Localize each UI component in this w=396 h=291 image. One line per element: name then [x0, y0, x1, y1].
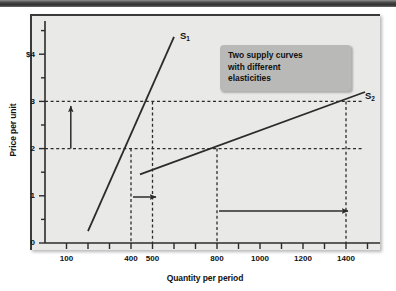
- callout-line-3: elasticities: [228, 73, 344, 85]
- economics-figure: $4 3 2 1 0 100 400 500 800 1000 1200 140…: [0, 7, 396, 291]
- callout-line-2: with different: [228, 62, 344, 74]
- x-axis-title: Quantity per period: [130, 273, 280, 283]
- s1-subscript: 1: [186, 35, 190, 42]
- supply-curve-s2: [140, 92, 365, 174]
- annotation-arrows: [71, 106, 348, 211]
- y-axis-title: Price per unit: [8, 95, 18, 165]
- x-tick-label-500: 500: [136, 254, 170, 263]
- x-tick-label-1000: 1000: [243, 254, 277, 263]
- y-tick-label-0: 0: [13, 238, 35, 247]
- x-axis-ticks: [67, 243, 368, 249]
- x-tick-label-1200: 1200: [286, 254, 320, 263]
- supply-curve-s1-label: S1: [180, 30, 190, 41]
- y-tick-label-1: 1: [13, 191, 35, 200]
- top-divider-bar: [0, 0, 396, 7]
- supply-curve-s2-label: S2: [365, 90, 375, 101]
- x-tick-label-800: 800: [200, 254, 234, 263]
- x-tick-label-100: 100: [50, 254, 84, 263]
- s2-subscript: 2: [371, 95, 375, 102]
- y-axis-ticks: [39, 31, 45, 243]
- supply-curve-s1: [88, 37, 174, 231]
- x-tick-label-1400: 1400: [329, 254, 363, 263]
- y-tick-label-4: $4: [13, 50, 35, 59]
- callout-box: Two supply curves with different elastic…: [220, 45, 351, 91]
- callout-line-1: Two supply curves: [228, 50, 344, 62]
